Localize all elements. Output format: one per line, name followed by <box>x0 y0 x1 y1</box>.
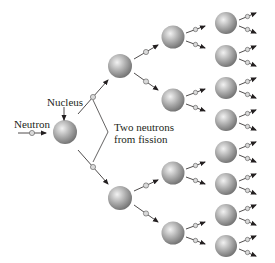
neutron-arrow <box>186 177 205 184</box>
neutron-icon <box>245 60 249 64</box>
neutron-icon <box>29 130 34 135</box>
nucleus-sphere-gen0 <box>53 120 77 144</box>
neutron-arrow <box>239 155 256 162</box>
nucleus-sphere-gen3-d <box>215 109 237 131</box>
neutron-icon <box>193 42 197 46</box>
neutron-icon <box>245 111 249 115</box>
neutron-arrow <box>239 26 256 33</box>
neutron-icon <box>193 90 197 94</box>
neutron-arrow <box>186 26 205 33</box>
neutron-icon <box>245 156 249 160</box>
neutron-arrow <box>239 13 256 20</box>
neutron-icon <box>143 79 148 84</box>
neutron-icon <box>245 92 249 96</box>
neutron-icon <box>245 219 249 223</box>
neutron-icon <box>90 164 95 169</box>
neutron-label: Neutron <box>14 118 51 130</box>
neutron-icon <box>193 163 197 167</box>
neutron-icon <box>193 238 197 242</box>
neutron-arrow <box>134 45 158 59</box>
fission-label-line1: Two neutrons <box>114 121 174 133</box>
neutron-icon <box>245 143 249 147</box>
neutron-arrow <box>134 180 158 191</box>
neutron-arrow <box>78 150 108 184</box>
neutron-arrow <box>186 162 205 169</box>
neutron-arrow <box>134 73 158 90</box>
neutron-arrow <box>239 249 256 256</box>
neutron-arrow <box>239 205 256 212</box>
nucleus-sphere-gen1-a <box>108 54 132 78</box>
neutron-arrow <box>239 46 256 53</box>
neutron-arrow <box>239 218 256 225</box>
nucleus-sphere-gen3-e <box>215 141 237 163</box>
nucleus-sphere-gen3-b <box>215 45 237 67</box>
neutron-arrow <box>239 187 256 194</box>
nucleus-sphere-gen3-f <box>215 173 237 195</box>
neutron-arrow <box>134 205 158 222</box>
neutron-arrow <box>186 104 205 111</box>
nucleus-sphere-gen1-b <box>108 186 132 210</box>
neutron-arrow <box>239 59 256 66</box>
neutron-icon <box>245 14 249 18</box>
neutron-arrow <box>239 174 256 181</box>
nucleus-sphere-gen2-c <box>162 162 185 185</box>
neutron-arrow <box>186 41 205 48</box>
neutron-arrow <box>18 130 46 135</box>
neutron-icon <box>245 27 249 31</box>
neutron-icon <box>245 237 249 241</box>
nucleus-sphere-gen3-h <box>215 235 237 257</box>
fission-label-line2: from fission <box>114 133 168 145</box>
neutron-icon <box>143 49 148 54</box>
neutron-icon <box>245 124 249 128</box>
neutron-icon <box>143 183 148 188</box>
neutron-icon <box>245 79 249 83</box>
neutron-arrow <box>186 89 205 96</box>
neutron-icon <box>193 27 197 31</box>
diagram-svg: Neutron Nucleus Two neutrons from fissio… <box>0 0 275 263</box>
neutron-icon <box>245 47 249 51</box>
neutron-icon <box>193 223 197 227</box>
nucleus-sphere-gen3-g <box>215 204 237 226</box>
neutron-icon <box>245 188 249 192</box>
neutron-arrow <box>239 123 256 130</box>
neutron-icon <box>245 175 249 179</box>
neutron-icon <box>143 211 148 216</box>
neutron-icon <box>90 94 95 99</box>
neutron-icon <box>193 105 197 109</box>
neutron-arrow <box>239 78 256 85</box>
nucleus-sphere-gen3-c <box>215 77 237 99</box>
neutron-arrow <box>186 222 205 229</box>
nucleus-label: Nucleus <box>47 96 83 108</box>
nucleus-sphere-gen2-b <box>162 89 185 112</box>
nucleus-sphere-gen2-d <box>162 222 185 245</box>
neutron-arrow <box>239 91 256 98</box>
fission-chain-diagram: Neutron Nucleus Two neutrons from fissio… <box>0 0 275 263</box>
neutron-arrow <box>239 142 256 149</box>
neutron-icon <box>245 250 249 254</box>
neutron-icon <box>193 178 197 182</box>
nucleus-sphere-gen2-a <box>162 26 185 49</box>
nucleus-sphere-gen3-a <box>215 12 237 34</box>
neutron-arrow <box>239 236 256 243</box>
neutron-arrow <box>186 237 205 244</box>
neutron-icon <box>245 206 249 210</box>
neutron-arrow <box>239 110 256 117</box>
